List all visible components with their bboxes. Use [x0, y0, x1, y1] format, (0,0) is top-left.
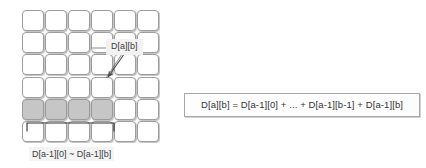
grid-cell-shaded — [45, 99, 67, 120]
grid-cell — [45, 77, 67, 98]
grid-cell-shaded — [91, 99, 113, 120]
grid-cell — [114, 77, 136, 98]
grid-cell — [91, 10, 113, 31]
grid-cell — [137, 10, 159, 31]
grid-cell — [22, 121, 44, 142]
grid-cell — [68, 54, 90, 75]
grid-cell — [114, 99, 136, 120]
grid-cell — [137, 54, 159, 75]
bracket-caption: D[a-1][0] ~ D[a-1][b] — [29, 147, 114, 161]
dp-recurrence-diagram: D[a][b] D[a-1][0] ~ D[a-1][b] D[a][b] = … — [0, 0, 426, 168]
grid-cell — [45, 121, 67, 142]
grid-cell-shaded — [68, 99, 90, 120]
grid-cell — [114, 10, 136, 31]
grid-cell — [22, 77, 44, 98]
grid-cell — [45, 32, 67, 53]
grid-cell — [68, 121, 90, 142]
grid-cell — [114, 121, 136, 142]
grid-cell — [137, 121, 159, 142]
grid-cell — [22, 54, 44, 75]
grid-cell — [45, 54, 67, 75]
grid-cell — [91, 54, 113, 75]
grid-cell — [68, 77, 90, 98]
grid-cell — [114, 54, 136, 75]
grid-cell — [137, 99, 159, 120]
grid-cell — [22, 10, 44, 31]
dp-table-grid — [22, 10, 160, 143]
grid-cell — [22, 32, 44, 53]
formula-box: D[a][b] = D[a-1][0] + ... + D[a-1][b-1] … — [184, 93, 420, 117]
grid-cell — [91, 121, 113, 142]
formula-text: D[a][b] = D[a-1][0] + ... + D[a-1][b-1] … — [201, 99, 403, 111]
grid-cell-target — [91, 77, 113, 98]
grid-cell — [68, 10, 90, 31]
grid-cell-shaded — [22, 99, 44, 120]
grid-cell — [45, 10, 67, 31]
grid-cell — [68, 32, 90, 53]
callout-label: D[a][b] — [106, 39, 143, 55]
grid-cell — [137, 77, 159, 98]
